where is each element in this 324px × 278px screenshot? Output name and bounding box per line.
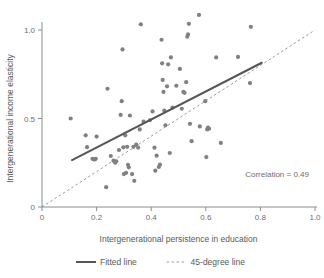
data-point (204, 155, 208, 159)
data-point (105, 87, 109, 91)
y-tick-label: 0.5 (24, 115, 36, 124)
data-point (150, 109, 154, 113)
data-point (187, 22, 191, 26)
y-tick-label: 0 (31, 203, 36, 212)
data-point (139, 22, 143, 26)
legend-label: Fitted line (100, 257, 137, 267)
data-point (119, 113, 123, 117)
x-tick-label: 1.0 (309, 213, 321, 222)
data-point (188, 122, 192, 126)
data-point (163, 123, 167, 127)
data-point (132, 179, 136, 183)
data-point (94, 157, 98, 161)
data-point (121, 145, 125, 149)
data-point (169, 55, 173, 59)
y-axis-title: Intergenerational income elasticity (5, 53, 15, 182)
fitted-line (72, 63, 262, 160)
data-point (197, 13, 201, 17)
data-point (120, 99, 124, 103)
legend-label: 45-degree line (191, 257, 246, 267)
data-point (161, 90, 165, 94)
data-point (182, 91, 186, 95)
data-point (95, 134, 99, 138)
data-point (153, 169, 157, 173)
data-point (186, 32, 190, 36)
data-point (219, 141, 223, 145)
data-point (236, 55, 240, 59)
data-point (166, 62, 170, 66)
data-point (155, 154, 159, 158)
x-axis-title: Intergenerational persistence in educati… (100, 234, 258, 244)
data-point (152, 146, 156, 150)
data-point (130, 172, 134, 176)
data-point (180, 107, 184, 111)
data-point (207, 127, 211, 131)
data-point (136, 145, 140, 149)
data-point (178, 67, 182, 71)
x-tick-label: 0.6 (200, 213, 212, 222)
data-point (114, 159, 118, 163)
data-point (117, 148, 121, 152)
x-tick-label: 0.8 (255, 213, 267, 222)
scatter-chart: 00.20.40.60.81.000.51.0Correlation = 0.4… (0, 0, 324, 278)
x-tick-label: 0 (40, 213, 45, 222)
data-point (85, 145, 89, 149)
data-point (214, 55, 218, 59)
data-point (184, 80, 188, 84)
data-point (127, 165, 131, 169)
data-point (128, 113, 132, 117)
data-point (138, 127, 142, 131)
data-point (120, 47, 124, 51)
data-point (160, 61, 164, 65)
data-point (165, 84, 169, 88)
chart-canvas: 00.20.40.60.81.000.51.0Correlation = 0.4… (0, 0, 324, 278)
data-point (159, 38, 163, 42)
data-point (158, 163, 162, 167)
data-point (174, 84, 178, 88)
data-point (84, 133, 88, 137)
forty-five-degree-line (42, 30, 315, 207)
correlation-annotation: Correlation = 0.49 (245, 170, 309, 179)
data-point (124, 171, 128, 175)
data-point (248, 81, 252, 85)
data-point (69, 116, 73, 120)
data-point (125, 145, 129, 149)
data-point (203, 99, 207, 103)
data-point (190, 139, 194, 143)
data-point (161, 78, 165, 82)
data-point (249, 25, 253, 29)
x-tick-label: 0.2 (91, 213, 103, 222)
x-tick-label: 0.4 (146, 213, 158, 222)
data-point (109, 154, 113, 158)
data-point (104, 185, 108, 189)
data-point (168, 151, 172, 155)
data-point (198, 124, 202, 128)
y-tick-label: 1.0 (24, 26, 36, 35)
